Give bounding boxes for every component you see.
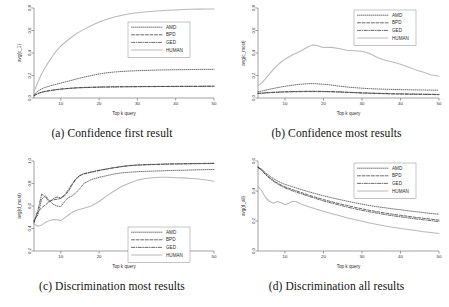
- svg-text:10: 10: [283, 101, 288, 106]
- svg-text:40: 40: [173, 101, 178, 106]
- svg-text:20: 20: [321, 101, 326, 106]
- svg-text:0.2: 0.2: [27, 247, 32, 254]
- svg-text:Top k query: Top k query: [337, 111, 361, 116]
- svg-text:0.8: 0.8: [27, 180, 32, 187]
- svg-text:GED: GED: [166, 245, 177, 250]
- svg-text:AMD: AMD: [166, 25, 177, 30]
- chart-a-content: 0.00.20.40.60.81020304050Top k queryavg(…: [17, 4, 217, 116]
- svg-text:0.4: 0.4: [27, 225, 32, 232]
- svg-text:40: 40: [398, 254, 403, 259]
- chart-c-content: 0.20.40.60.81.01020304050Top k queryavg(…: [17, 157, 217, 269]
- plot-area-a: 0.00.20.40.60.81020304050Top k queryavg(…: [0, 0, 224, 126]
- svg-text:0.0: 0.0: [27, 94, 32, 101]
- svg-text:AMD: AMD: [392, 166, 403, 171]
- svg-text:0.8: 0.8: [251, 4, 256, 11]
- svg-text:20: 20: [321, 254, 326, 259]
- caption-a: (a) Confidence first result: [51, 127, 172, 140]
- chart-d: 0.00.20.40.61020304050Top k queryavg(d_a…: [224, 153, 449, 279]
- svg-text:40: 40: [398, 101, 403, 106]
- chart-b-content: 0.00.20.40.60.81020304050Top k queryavg(…: [241, 4, 442, 116]
- svg-text:GED: GED: [392, 181, 403, 186]
- svg-text:avg(d_all): avg(d_all): [241, 195, 246, 216]
- svg-text:avg(d_most): avg(d_most): [17, 193, 22, 219]
- svg-text:0.0: 0.0: [251, 247, 256, 254]
- svg-text:50: 50: [437, 254, 442, 259]
- svg-text:30: 30: [135, 101, 140, 106]
- svg-text:0.6: 0.6: [251, 157, 256, 164]
- svg-text:0.6: 0.6: [27, 202, 32, 209]
- svg-text:Top k query: Top k query: [112, 111, 136, 116]
- svg-text:0.2: 0.2: [251, 217, 256, 224]
- svg-text:GED: GED: [166, 40, 177, 45]
- chart-c: 0.20.40.60.81.01020304050Top k queryavg(…: [0, 153, 224, 279]
- svg-text:AMD: AMD: [166, 230, 177, 235]
- svg-text:30: 30: [360, 254, 365, 259]
- panel-c: 0.20.40.60.81.01020304050Top k queryavg(…: [0, 153, 224, 307]
- svg-text:BPD: BPD: [166, 237, 176, 242]
- svg-text:0.6: 0.6: [27, 27, 32, 34]
- svg-text:10: 10: [58, 254, 63, 259]
- svg-text:0.2: 0.2: [27, 72, 32, 79]
- svg-text:AMD: AMD: [392, 13, 403, 18]
- svg-text:50: 50: [212, 254, 217, 259]
- svg-text:0.4: 0.4: [27, 49, 32, 56]
- svg-text:20: 20: [97, 254, 102, 259]
- svg-text:0.4: 0.4: [251, 49, 256, 56]
- svg-text:30: 30: [360, 101, 365, 106]
- svg-text:1.0: 1.0: [27, 157, 32, 164]
- svg-text:0.2: 0.2: [251, 72, 256, 79]
- caption-b: (b) Confidence most results: [271, 127, 401, 140]
- svg-text:HUMAN: HUMAN: [392, 36, 409, 41]
- plot-area-c: 0.20.40.60.81.01020304050Top k queryavg(…: [0, 153, 224, 279]
- plot-area-b: 0.00.20.40.60.81020304050Top k queryavg(…: [224, 0, 449, 126]
- svg-text:HUMAN: HUMAN: [166, 48, 183, 53]
- caption-d: (d) Discrimination all results: [269, 280, 405, 293]
- svg-text:GED: GED: [392, 28, 403, 33]
- svg-text:0.4: 0.4: [251, 187, 256, 194]
- panel-d: 0.00.20.40.61020304050Top k queryavg(d_a…: [224, 153, 449, 307]
- svg-text:HUMAN: HUMAN: [392, 189, 409, 194]
- svg-text:0.0: 0.0: [251, 94, 256, 101]
- svg-text:BPD: BPD: [166, 32, 176, 37]
- panel-b: 0.00.20.40.60.81020304050Top k queryavg(…: [224, 0, 449, 153]
- svg-text:Top k query: Top k query: [337, 264, 361, 269]
- svg-text:avg(c_most): avg(c_most): [241, 40, 246, 66]
- svg-text:avg(c_1): avg(c_1): [17, 44, 22, 62]
- chart-d-content: 0.00.20.40.61020304050Top k queryavg(d_a…: [241, 157, 442, 269]
- figure-grid: 0.00.20.40.60.81020304050Top k queryavg(…: [0, 0, 449, 307]
- svg-text:10: 10: [283, 254, 288, 259]
- panel-a: 0.00.20.40.60.81020304050Top k queryavg(…: [0, 0, 224, 153]
- svg-text:BPD: BPD: [392, 173, 402, 178]
- svg-text:HUMAN: HUMAN: [166, 253, 183, 258]
- svg-text:0.8: 0.8: [27, 4, 32, 11]
- chart-a: 0.00.20.40.60.81020304050Top k queryavg(…: [0, 0, 224, 126]
- plot-area-d: 0.00.20.40.61020304050Top k queryavg(d_a…: [224, 153, 449, 279]
- svg-text:50: 50: [212, 101, 217, 106]
- caption-c: (c) Discrimination most results: [39, 280, 185, 293]
- svg-text:BPD: BPD: [392, 20, 402, 25]
- svg-text:0.6: 0.6: [251, 27, 256, 34]
- svg-text:10: 10: [58, 101, 63, 106]
- chart-b: 0.00.20.40.60.81020304050Top k queryavg(…: [224, 0, 449, 126]
- svg-text:Top k query: Top k query: [112, 264, 136, 269]
- svg-text:50: 50: [437, 101, 442, 106]
- svg-text:20: 20: [97, 101, 102, 106]
